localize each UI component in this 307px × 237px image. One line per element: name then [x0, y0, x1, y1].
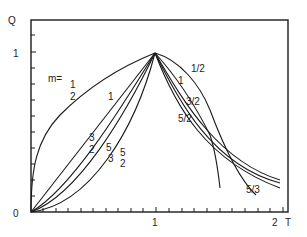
label-m-52-num: 5 [120, 147, 126, 158]
label-r-half: 1/2 [191, 63, 205, 74]
y-tick-label-1: 1 [13, 48, 19, 59]
x-tick-label-1: 1 [152, 217, 158, 228]
label-m-53-num: 5 [106, 142, 112, 153]
label-m-1: 1 [108, 91, 114, 102]
label-m-half-num: 1 [70, 79, 76, 90]
label-m-53-den: 3 [108, 153, 114, 164]
label-m-32-num: 3 [89, 132, 95, 143]
curve-m-half-fall [155, 53, 256, 195]
m-equals-label: m= [48, 73, 62, 84]
label-r-53: 5/3 [246, 184, 260, 195]
x-axis-title: T [285, 217, 291, 228]
curve-m-32-fall [155, 53, 280, 180]
label-m-32-den: 2 [89, 144, 95, 155]
label-r-52: 5/2 [178, 113, 192, 124]
origin-label: 0 [13, 208, 19, 219]
x-ticks [43, 207, 283, 212]
label-m-52-den: 2 [120, 158, 126, 169]
label-m-half-den: 2 [70, 91, 76, 102]
label-r-1: 1 [178, 75, 184, 86]
label-r-32: 3/2 [186, 96, 200, 107]
curve-m-53-fall [155, 53, 280, 183]
x-tick-label-2: 2 [272, 217, 278, 228]
chart: Q 1 0 1 2 T m= 1 2 1 3 2 5 3 5 2 1/2 1 3… [0, 0, 307, 237]
y-axis-title: Q [8, 15, 16, 26]
